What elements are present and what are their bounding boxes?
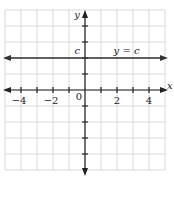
annotation-c: c — [74, 45, 80, 56]
y-axis-down-arrow-icon — [82, 168, 88, 176]
series-label: y = c — [113, 45, 140, 56]
series-right-arrow-icon — [160, 55, 168, 61]
x-axis-left-arrow-icon — [3, 87, 11, 93]
series-left-arrow-icon — [3, 55, 11, 61]
y-axis-label: y — [73, 9, 80, 20]
x-tick-label: −2 — [44, 95, 59, 106]
y-axis-up-arrow-icon — [82, 10, 88, 18]
x-axis-label: x — [167, 80, 173, 91]
x-tick-label: 2 — [114, 95, 120, 106]
x-tick-label: −4 — [12, 95, 27, 106]
chart-canvas: −4−2240xycy = c — [0, 0, 174, 198]
origin-label: 0 — [76, 91, 82, 102]
x-tick-label: 4 — [146, 95, 152, 106]
